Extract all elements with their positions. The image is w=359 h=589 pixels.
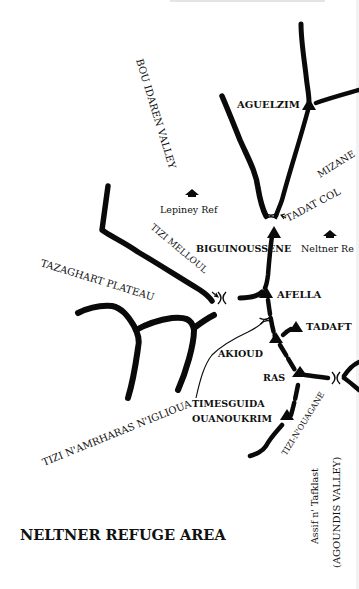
label-tizi-namrharas: TIZI N'AMRHARAS N'IGLIOUA [41, 398, 194, 468]
refuge-neltner-icon [323, 230, 337, 238]
peak-biguinoussene-icon [267, 226, 281, 238]
peak-aguelzim-icon [302, 98, 316, 110]
label-agoundis-valley: (AGOUNDIS VALLEY) [331, 457, 342, 568]
label-akioud: AKIOUD [217, 348, 263, 359]
ridge-tazaghart-mid [136, 318, 194, 390]
label-bou-idaren-valley: BOU IDAREN VALLEY [134, 57, 178, 170]
ridge-tazaghart-west [78, 306, 139, 398]
label-aguelzim: AGUELZIM [236, 99, 300, 110]
trail-tizi-melloul-arrow [212, 292, 218, 297]
map-title: NELTNER REFUGE AREA [20, 526, 226, 543]
label-biguinoussene: BIGUINOUSSENE [196, 243, 291, 254]
label-tadat-col: TADAT COL [284, 186, 343, 224]
label-neltner-ref: Neltner Re [301, 243, 354, 254]
refuge-lepiney-icon [185, 189, 199, 197]
label-tadaft: TADAFT [306, 321, 352, 332]
label-ras: RAS [263, 372, 285, 383]
trekking-map: BOU IDAREN VALLEY AGUELZIM MIZANE TADAT … [0, 0, 359, 589]
ridge-tazaghart-east [194, 315, 214, 328]
label-lepiney-ref: Lepiney Ref [160, 204, 219, 215]
label-mizane: MIZANE [315, 148, 357, 180]
peak-tadaft-icon [289, 321, 303, 332]
ridge-east-beyond-pass [344, 362, 359, 390]
ridge-north [301, 24, 309, 102]
label-ouanoukrim: OUANOUKRIM [192, 413, 272, 424]
ridge-akioud-ras [280, 345, 296, 372]
ridge-afella-west [240, 292, 262, 298]
label-tazaghart-plateau: TAZAGHART PLATEAU [39, 257, 155, 302]
pass-tizi-melloul-icon [218, 292, 226, 304]
label-assif-n-tafklast: Assif n' Tafklast [309, 468, 320, 545]
ridge-ouanoukrim-sw [250, 425, 282, 456]
peak-akioud-icon [269, 332, 283, 343]
ridge-lines [78, 24, 359, 456]
ridge-west-tadat [222, 96, 266, 216]
ridge-ras-ouanoukrim [291, 385, 298, 415]
ridge-aguelzim-biguinoussene [276, 110, 308, 216]
map-labels: BOU IDAREN VALLEY AGUELZIM MIZANE TADAT … [20, 57, 357, 568]
pass-tizi-nouagane-icon [332, 372, 340, 384]
trail-tizi-namrharas [196, 320, 264, 398]
label-afella: AFELLA [276, 289, 322, 300]
label-timesguida: TIMESGUIDA [192, 398, 265, 409]
ridge-aguelzim-east [316, 90, 359, 103]
ridge-ras-east [305, 375, 328, 378]
label-tizi-nouagane: TIZI-N'OUAGANE [280, 390, 326, 457]
